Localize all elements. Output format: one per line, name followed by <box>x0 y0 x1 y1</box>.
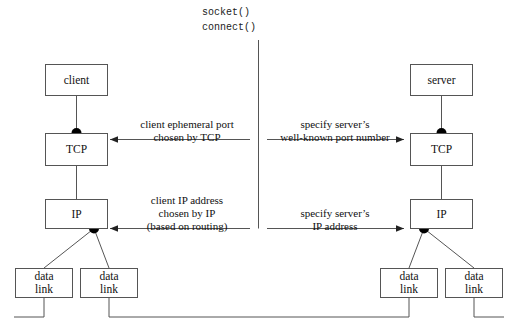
box-server-datalink-left[interactable]: data link <box>380 268 438 298</box>
network-bus <box>109 297 409 317</box>
diagram-canvas: socket() connect() client TCP IP data li… <box>0 0 518 332</box>
label-ip-server-line1: specify server’s <box>272 207 398 220</box>
box-server-datalink-left-line1: data <box>399 270 418 283</box>
label-tcp-server-side: specify server’s well-known port number <box>268 118 402 144</box>
box-client-label: client <box>64 74 90 87</box>
client-datalink-left-stub <box>14 297 44 317</box>
label-tcp-server-line1: specify server’s <box>268 118 402 131</box>
box-client-datalink-left-line1: data <box>34 270 53 283</box>
label-ip-client-side: client IP address chosen by IP (based on… <box>126 194 248 233</box>
box-server-ip-label: IP <box>436 208 446 221</box>
box-server-datalink-left-line2: link <box>400 283 418 296</box>
box-client[interactable]: client <box>45 64 108 96</box>
client-ip-to-datalink-left <box>44 229 94 269</box>
box-server[interactable]: server <box>410 64 473 96</box>
label-ip-client-line3: (based on routing) <box>126 220 248 233</box>
box-client-datalink-right[interactable]: data link <box>80 268 138 298</box>
box-client-datalink-left-line2: link <box>35 283 53 296</box>
box-client-datalink-left[interactable]: data link <box>15 268 73 298</box>
client-ip-to-datalink-right <box>94 229 109 269</box>
box-server-datalink-right[interactable]: data link <box>445 268 503 298</box>
syscall-connect: connect() <box>202 21 256 34</box>
diagram-connectors <box>0 0 518 332</box>
box-client-datalink-right-line1: data <box>99 270 118 283</box>
box-server-tcp-label: TCP <box>431 143 452 156</box>
box-client-tcp[interactable]: TCP <box>45 133 108 166</box>
label-ip-server-line2: IP address <box>272 220 398 233</box>
box-client-ip[interactable]: IP <box>45 199 108 229</box>
server-ip-to-datalink-right <box>424 229 474 269</box>
box-server-datalink-right-line1: data <box>464 270 483 283</box>
box-server-ip[interactable]: IP <box>410 199 473 229</box>
label-tcp-client-line2: chosen by TCP <box>126 131 248 144</box>
box-server-label: server <box>427 74 455 87</box>
label-tcp-server-line2: well-known port number <box>268 131 402 144</box>
label-ip-client-line1: client IP address <box>126 194 248 207</box>
label-tcp-client-line1: client ephemeral port <box>126 118 248 131</box>
server-datalink-right-stub <box>474 297 504 317</box>
box-client-ip-label: IP <box>71 208 81 221</box>
box-server-datalink-right-line2: link <box>465 283 483 296</box>
box-client-tcp-label: TCP <box>66 143 87 156</box>
label-ip-client-line2: chosen by IP <box>126 207 248 220</box>
server-ip-to-datalink-left <box>409 229 424 269</box>
syscall-socket: socket() <box>202 6 250 19</box>
box-client-datalink-right-line2: link <box>100 283 118 296</box>
label-ip-server-side: specify server’s IP address <box>272 207 398 233</box>
label-tcp-client-side: client ephemeral port chosen by TCP <box>126 118 248 144</box>
box-server-tcp[interactable]: TCP <box>410 133 473 166</box>
